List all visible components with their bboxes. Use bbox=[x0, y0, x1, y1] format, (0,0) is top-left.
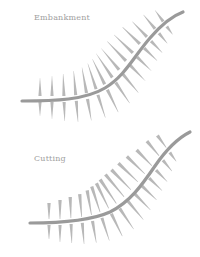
hachure-wedge bbox=[78, 194, 82, 217]
hachure-wedge bbox=[134, 193, 151, 210]
hachure-wedge bbox=[58, 200, 61, 219]
embankment-hachures bbox=[38, 10, 172, 122]
hachure-wedge bbox=[91, 221, 97, 243]
hachure-wedge bbox=[146, 140, 160, 156]
hachure-wedge bbox=[106, 89, 119, 112]
hachure-wedge bbox=[123, 27, 142, 45]
embankment-panel bbox=[22, 10, 183, 122]
hachure-wedge bbox=[127, 200, 144, 220]
hachure-wedge bbox=[129, 64, 146, 81]
hachure-wedge bbox=[47, 225, 50, 239]
hachure-wedge bbox=[63, 102, 66, 121]
hachure-wedge bbox=[58, 225, 61, 242]
hachure-wedge bbox=[96, 94, 105, 117]
hachure-wedge bbox=[166, 26, 173, 35]
hachure-wedge bbox=[158, 32, 168, 43]
hachure-wedge bbox=[143, 15, 156, 30]
hachure-wedge bbox=[100, 217, 109, 240]
cutting-road-line bbox=[30, 132, 190, 223]
hachure-wedge bbox=[82, 67, 88, 93]
hachure-wedge bbox=[74, 71, 78, 95]
hachure-wedge bbox=[136, 56, 152, 71]
hachure-wedge bbox=[169, 152, 177, 162]
hachure-wedge bbox=[114, 82, 129, 104]
hachure-wedge bbox=[38, 78, 41, 96]
hachure-wedge bbox=[62, 74, 65, 96]
hachure-wedge bbox=[38, 102, 41, 116]
embankment-road-line bbox=[22, 12, 183, 101]
hachure-wedge bbox=[47, 203, 50, 219]
cutting-hachures bbox=[47, 134, 176, 244]
hachure-wedge bbox=[132, 22, 148, 38]
hachure-wedge bbox=[143, 47, 157, 61]
hachure-wedge bbox=[69, 197, 72, 218]
hachure-wedge bbox=[50, 102, 53, 119]
hachure-wedge bbox=[96, 53, 114, 78]
hachure-wedge bbox=[104, 173, 124, 197]
hachure-wedge bbox=[156, 134, 167, 147]
hachure-wedge bbox=[122, 73, 139, 93]
cutting-panel bbox=[30, 132, 190, 244]
hachure-wedge bbox=[141, 185, 157, 200]
hachure-wedge bbox=[81, 223, 85, 244]
hachure-wedge bbox=[110, 213, 123, 236]
hachure-wedge bbox=[135, 149, 152, 166]
hachure-wedge bbox=[155, 10, 165, 22]
hachure-diagram bbox=[0, 0, 200, 257]
hachure-wedge bbox=[155, 169, 167, 182]
hachure-wedge bbox=[150, 40, 162, 53]
hachure-wedge bbox=[75, 101, 79, 122]
hachure-wedge bbox=[50, 76, 53, 96]
hachure-wedge bbox=[86, 190, 92, 215]
hachure-wedge bbox=[86, 99, 92, 121]
hachure-wedge bbox=[148, 177, 162, 191]
hachure-wedge bbox=[118, 208, 133, 230]
hachure-wedge bbox=[162, 159, 172, 171]
hachure-wedge bbox=[126, 155, 145, 174]
hachure-wedge bbox=[70, 224, 73, 243]
